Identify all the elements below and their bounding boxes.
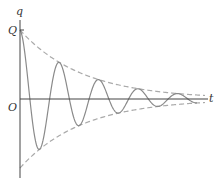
q-axis-label: q [16,6,23,17]
initial-value-label: Q [8,25,17,36]
damped-oscillation-diagram [0,0,216,186]
oscillation-curve [20,30,197,149]
upper-envelope-curve [20,30,205,96]
origin-label: O [8,102,17,113]
t-axis-label: t [209,93,213,104]
